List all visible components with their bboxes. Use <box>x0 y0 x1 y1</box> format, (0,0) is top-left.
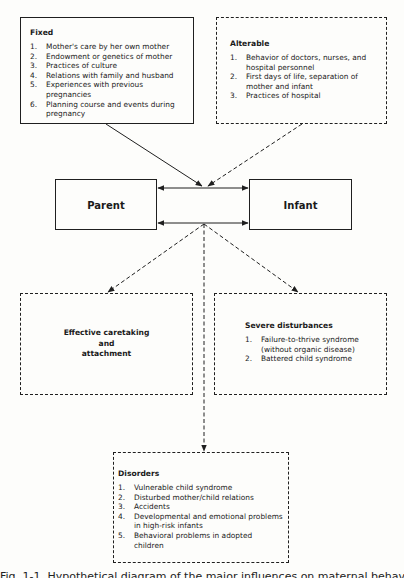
disorders-item: 5.Behavioral problems in adopted childre… <box>118 531 284 550</box>
figure-caption: Fig. 1-1. Hypothetical diagram of the ma… <box>0 570 404 578</box>
alterable-item: 1.Behavior of doctors, nurses, and hospi… <box>230 53 378 72</box>
severe-disturbances-box: Severe disturbances 1.Failure-to-thrive … <box>214 293 387 395</box>
fixed-factors-box: Fixed 1.Mother's care by her own mother … <box>20 17 194 124</box>
fixed-title: Fixed <box>30 28 185 37</box>
severe-item: 2.Battered child syndrome <box>245 354 378 364</box>
effective-caretaking-label: Effective caretaking and attachment <box>21 328 192 360</box>
disorders-item: 2.Disturbed mother/child relations <box>118 493 284 503</box>
fixed-item: 4.Relations with family and husband <box>30 71 185 81</box>
fixed-item: 2.Endowment or genetics of mother <box>30 52 185 62</box>
fixed-item: 3.Practices of culture <box>30 61 185 71</box>
disorders-item: 1.Vulnerable child syndrome <box>118 483 284 493</box>
arrow-link-to-severe <box>204 224 298 292</box>
arrow-fixed-to-link <box>106 124 202 186</box>
disorders-list: 1.Vulnerable child syndrome 2.Disturbed … <box>118 483 284 550</box>
alterable-factors-box: Alterable 1.Behavior of doctors, nurses,… <box>216 17 387 124</box>
effective-caretaking-box: Effective caretaking and attachment <box>20 293 193 395</box>
disorders-box: Disorders 1.Vulnerable child syndrome 2.… <box>113 452 289 563</box>
fixed-item: 5.Experiences with previous pregnancies <box>30 80 185 99</box>
alterable-list: 1.Behavior of doctors, nurses, and hospi… <box>230 53 378 101</box>
arrow-link-to-effective <box>108 224 204 292</box>
alterable-title: Alterable <box>230 39 378 48</box>
alterable-item: 2.First days of life, separation of moth… <box>230 72 378 91</box>
parent-box: Parent <box>55 179 157 230</box>
severe-item: 1.Failure-to-thrive syndrome (without or… <box>245 335 378 354</box>
fixed-list: 1.Mother's care by her own mother 2.Endo… <box>30 42 185 119</box>
disorders-item: 3.Accidents <box>118 502 284 512</box>
fixed-item: 1.Mother's care by her own mother <box>30 42 185 52</box>
severe-list: 1.Failure-to-thrive syndrome (without or… <box>245 335 378 364</box>
infant-label: Infant <box>250 199 351 210</box>
infant-box: Infant <box>249 179 352 230</box>
arrow-alterable-to-link <box>208 124 302 186</box>
alterable-item: 3.Practices of hospital <box>230 91 378 101</box>
disorders-title: Disorders <box>118 469 284 478</box>
fixed-item: 6.Planning course and events during preg… <box>30 100 185 119</box>
parent-label: Parent <box>56 199 156 210</box>
severe-title: Severe disturbances <box>245 321 378 330</box>
disorders-item: 4.Developmental and emotional problems i… <box>118 512 284 531</box>
